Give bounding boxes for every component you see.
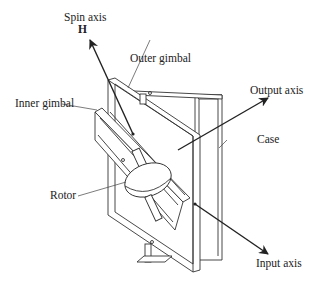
- spin-axis-symbol: H: [78, 23, 87, 35]
- case-label: Case: [257, 133, 279, 145]
- outer-gimbal-leader: [128, 40, 150, 88]
- inner-gimbal-label: Inner gimbal: [15, 97, 74, 110]
- output-axis-label: Output axis: [250, 84, 304, 97]
- gyroscope-diagram: Spin axis H Outer gimbal Inner gimbal Ou…: [0, 0, 312, 288]
- outer-gimbal-label: Outer gimbal: [130, 52, 191, 65]
- output-axis-arrow: [178, 98, 268, 150]
- outer-gimbal-top-pivot: [140, 94, 146, 104]
- input-axis-label: Input axis: [256, 257, 302, 270]
- rotor-label: Rotor: [50, 189, 76, 201]
